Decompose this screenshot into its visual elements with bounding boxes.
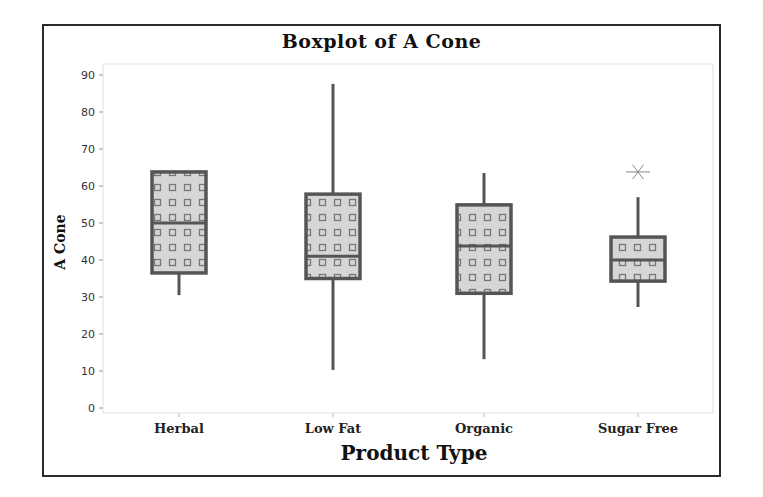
y-tick-label: 30 (81, 291, 95, 304)
iqr-box (457, 205, 511, 293)
x-tick-label: Herbal (154, 421, 204, 436)
x-tick-label: Organic (455, 421, 513, 436)
y-tick-label: 10 (81, 365, 95, 378)
box-sugar-free (611, 165, 665, 307)
y-tick-label: 0 (88, 402, 95, 415)
y-tick-label: 20 (81, 328, 95, 341)
boxplot-area: 0102030405060708090 HerbalLow FatOrganic… (0, 0, 763, 497)
y-tick-label: 50 (81, 217, 95, 230)
x-tick-label: Low Fat (305, 421, 361, 436)
x-tick-label: Sugar Free (598, 421, 678, 436)
x-axis: HerbalLow FatOrganicSugar Free (154, 413, 678, 436)
y-tick-label: 60 (81, 180, 95, 193)
y-tick-label: 80 (81, 106, 95, 119)
box-herbal (152, 172, 206, 295)
y-axis: 0102030405060708090 (81, 69, 103, 415)
boxes (152, 84, 665, 370)
iqr-box (306, 194, 360, 278)
outlier-asterisk-icon (626, 165, 650, 179)
box-low-fat (306, 84, 360, 370)
y-tick-label: 70 (81, 143, 95, 156)
box-organic (457, 173, 511, 359)
y-tick-label: 40 (81, 254, 95, 267)
y-tick-label: 90 (81, 69, 95, 82)
